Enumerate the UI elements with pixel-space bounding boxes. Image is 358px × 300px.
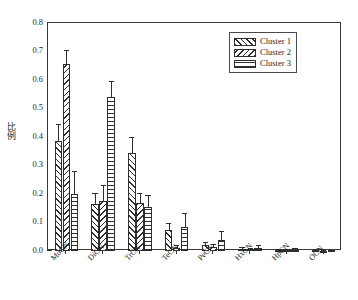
- bar-trcn-cluster-3: [144, 207, 152, 251]
- bar-mocn-cluster-3: [71, 194, 79, 251]
- bar-trcn-cluster-1: [128, 153, 136, 251]
- chart-legend: Cluster 1 Cluster 2 Cluster 3: [229, 32, 297, 73]
- error-bar-stem: [140, 193, 141, 203]
- error-bar-stem: [103, 185, 104, 201]
- y-axis-tick-label: 0.3: [19, 160, 43, 169]
- bar-hpcn-cluster-3: [291, 250, 299, 252]
- legend-item: Cluster 3: [234, 58, 291, 69]
- error-bar-stem: [66, 50, 67, 64]
- error-bar-cap: [92, 193, 97, 194]
- y-axis-tick-label: 0.8: [19, 18, 43, 27]
- y-axis-tick-label: 0.2: [19, 189, 43, 198]
- error-bar-cap: [129, 137, 134, 138]
- error-bar-cap: [72, 171, 77, 172]
- bar-mocn-cluster-2: [63, 64, 71, 251]
- y-axis-tick-label: 0.5: [19, 103, 43, 112]
- error-bar-stem: [169, 223, 170, 230]
- bar-pecn-cluster-3: [218, 240, 226, 251]
- error-bar-stem: [148, 195, 149, 206]
- y-axis-tick-label: 0.4: [19, 132, 43, 141]
- legend-swatch-cluster-1: [234, 38, 256, 46]
- error-bar-cap: [256, 245, 261, 246]
- legend-item: Cluster 1: [234, 36, 291, 47]
- error-bar-stem: [74, 171, 75, 194]
- error-bar-cap: [329, 250, 334, 251]
- error-bar-stem: [95, 193, 96, 204]
- error-bar-cap: [137, 193, 142, 194]
- error-bar-stem: [111, 81, 112, 97]
- error-bar-stem: [221, 231, 222, 240]
- legend-label-cluster-1: Cluster 1: [260, 37, 291, 46]
- error-bar-cap: [219, 231, 224, 232]
- y-axis-major-tick: [47, 250, 52, 251]
- error-bar-cap: [109, 81, 114, 82]
- bar-dicn-cluster-3: [107, 97, 115, 251]
- bar-tecn-cluster-3: [181, 227, 189, 251]
- error-bar-cap: [56, 124, 61, 125]
- y-axis-tick-label: 0.0: [19, 246, 43, 255]
- error-bar-stem: [185, 213, 186, 227]
- error-bar-cap: [182, 213, 187, 214]
- legend-swatch-cluster-2: [234, 49, 256, 57]
- chart-figure: 比例 0.00.10.20.30.40.50.60.70.8 MoCNDiCNT…: [0, 0, 358, 300]
- bar-mocn-cluster-1: [55, 141, 63, 251]
- y-axis-tick-label: 0.7: [19, 46, 43, 55]
- legend-item: Cluster 2: [234, 47, 291, 58]
- y-axis-tick-label: 0.1: [19, 217, 43, 226]
- y-axis-tick-label: 0.6: [19, 75, 43, 84]
- legend-label-cluster-2: Cluster 2: [260, 48, 291, 57]
- error-bar-cap: [145, 195, 150, 196]
- error-bar-stem: [132, 137, 133, 153]
- error-bar-cap: [64, 50, 69, 51]
- error-bar-cap: [166, 223, 171, 224]
- bar-hxcn-cluster-3: [254, 248, 262, 251]
- legend-swatch-cluster-3: [234, 60, 256, 68]
- error-bar-cap: [292, 248, 297, 249]
- error-bar-stem: [58, 124, 59, 141]
- legend-label-cluster-3: Cluster 3: [260, 59, 291, 68]
- y-axis-tick-labels: 0.00.10.20.30.40.50.60.70.8: [14, 0, 43, 300]
- error-bar-cap: [101, 185, 106, 186]
